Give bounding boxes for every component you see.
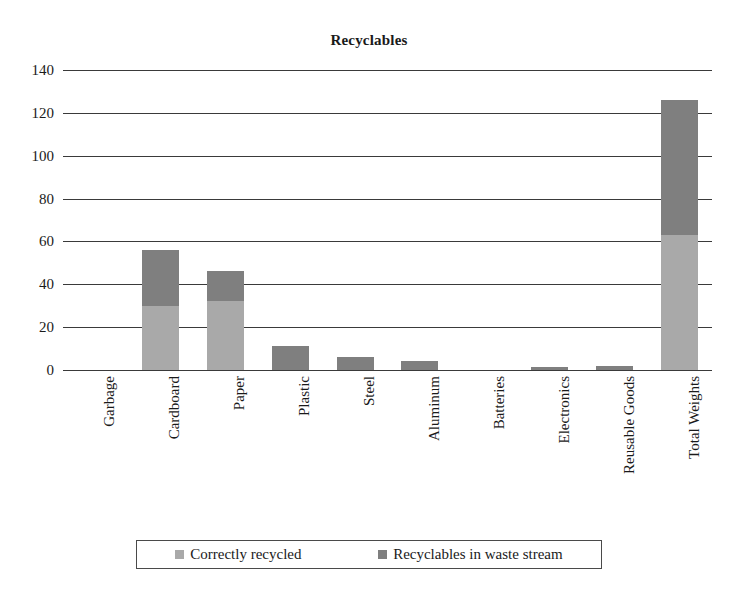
bar-group[interactable]: [323, 70, 388, 370]
bar-segment-waste-stream[interactable]: [401, 361, 438, 370]
bar-group[interactable]: [452, 70, 517, 370]
bar-group[interactable]: [582, 70, 647, 370]
bar-segment-correctly-recycled[interactable]: [142, 306, 179, 370]
category-label-batteries: Batteries: [491, 376, 508, 429]
bar-segment-correctly-recycled[interactable]: [207, 301, 244, 370]
y-axis-tick-label: 60: [39, 233, 54, 250]
bar-stack[interactable]: [142, 250, 179, 370]
bar-segment-waste-stream[interactable]: [272, 346, 309, 370]
legend-item[interactable]: Correctly recycled: [175, 546, 301, 563]
bar-stack[interactable]: [661, 100, 698, 370]
gridline: 0: [63, 370, 712, 371]
bar-stack[interactable]: [207, 271, 244, 370]
bar-segment-waste-stream[interactable]: [142, 250, 179, 306]
legend-item[interactable]: Recyclables in waste stream: [378, 546, 563, 563]
legend-swatch-icon: [378, 550, 387, 559]
category-label-total-weights: Total Weights: [686, 376, 703, 459]
bar-segment-waste-stream[interactable]: [596, 366, 633, 370]
bar-group[interactable]: [388, 70, 453, 370]
bar-segment-waste-stream[interactable]: [207, 271, 244, 301]
bar-stack[interactable]: [596, 366, 633, 370]
legend-label: Recyclables in waste stream: [393, 546, 563, 563]
category-label-reusable-goods: Reusable Goods: [621, 376, 638, 474]
y-axis-tick-label: 40: [39, 276, 54, 293]
page-title: Recyclables: [0, 32, 738, 49]
category-label-plastic: Plastic: [296, 376, 313, 416]
legend-label: Correctly recycled: [190, 546, 301, 563]
bar-segment-waste-stream[interactable]: [337, 357, 374, 370]
category-label-electronics: Electronics: [556, 376, 573, 443]
bar-stack[interactable]: [337, 357, 374, 370]
chart-legend: Correctly recycledRecyclables in waste s…: [136, 540, 602, 569]
y-axis-tick-label: 0: [47, 362, 55, 379]
bar-group[interactable]: [647, 70, 712, 370]
y-axis-tick-label: 140: [32, 62, 55, 79]
category-label-steel: Steel: [361, 376, 378, 406]
y-axis-tick-label: 20: [39, 319, 54, 336]
category-label-garbage: Garbage: [101, 376, 118, 427]
bar-stack[interactable]: [401, 361, 438, 370]
bar-segment-waste-stream[interactable]: [531, 367, 568, 370]
y-axis-tick-label: 120: [32, 104, 55, 121]
bar-group[interactable]: [128, 70, 193, 370]
category-label-aluminum: Aluminum: [426, 376, 443, 441]
bar-group[interactable]: [517, 70, 582, 370]
y-axis-tick-label: 100: [32, 147, 55, 164]
bars-layer: [63, 70, 712, 370]
bar-group[interactable]: [258, 70, 323, 370]
legend-swatch-icon: [175, 550, 184, 559]
bar-group[interactable]: [193, 70, 258, 370]
category-label-cardboard: Cardboard: [166, 376, 183, 439]
bar-segment-correctly-recycled[interactable]: [661, 235, 698, 370]
y-axis-tick-label: 80: [39, 190, 54, 207]
bar-stack[interactable]: [531, 367, 568, 370]
category-label-paper: Paper: [231, 376, 248, 410]
bar-segment-waste-stream[interactable]: [661, 100, 698, 235]
bar-group[interactable]: [63, 70, 128, 370]
chart-page: Recyclables 140120100806040200 GarbageCa…: [0, 0, 738, 608]
category-axis-labels: GarbageCardboardPaperPlasticSteelAluminu…: [63, 372, 712, 512]
bar-stack[interactable]: [272, 346, 309, 370]
